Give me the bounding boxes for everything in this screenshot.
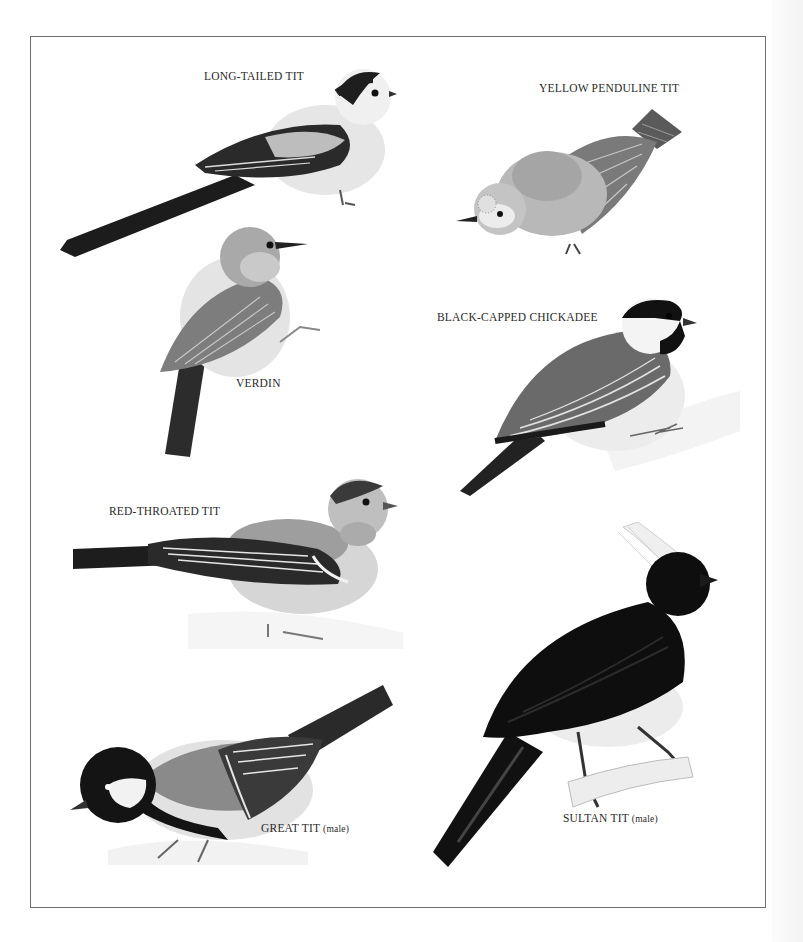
red-throated-tit-illustration	[68, 474, 403, 649]
great-tit-illustration	[68, 680, 398, 870]
label-great-tit: GREAT TIT (male)	[261, 822, 349, 834]
verdin-illustration	[150, 222, 320, 467]
label-sultan-tit: SULTAN TIT (male)	[563, 812, 658, 824]
label-verdin: VERDIN	[236, 377, 281, 389]
black-capped-chickadee-illustration	[455, 296, 745, 506]
page-edge-shadow	[772, 0, 803, 942]
label-yellow-penduline-tit: YELLOW PENDULINE TIT	[539, 82, 679, 94]
yellow-penduline-tit-illustration	[452, 104, 692, 259]
